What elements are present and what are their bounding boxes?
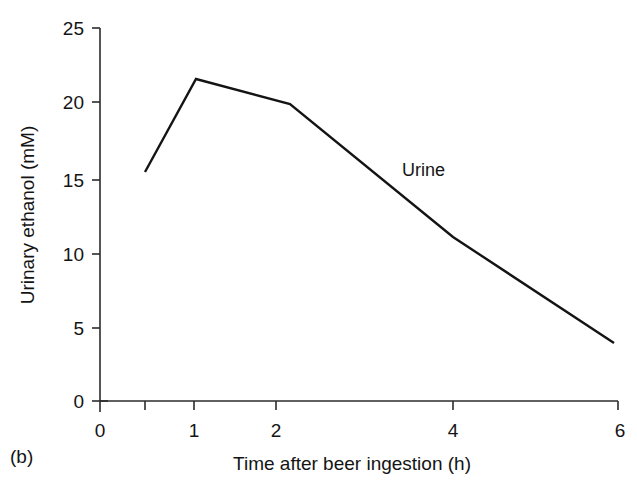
x-tick-label-2: 2 bbox=[271, 420, 282, 441]
urine-data-line bbox=[145, 79, 614, 343]
series-label-urine: Urine bbox=[402, 160, 445, 180]
x-axis-group: 0 1 2 4 6 Time after beer ingestion (h) bbox=[95, 401, 626, 474]
y-tick-label-5: 5 bbox=[73, 318, 84, 339]
series-urine: Urine bbox=[145, 79, 614, 343]
y-tick-label-15: 15 bbox=[63, 170, 84, 191]
x-tick-label-1: 1 bbox=[189, 420, 200, 441]
x-tick-label-4: 4 bbox=[448, 420, 459, 441]
y-axis-group: 25 20 15 10 5 0 Urinary ethanol (mM) bbox=[17, 18, 108, 412]
x-tick-label-0: 0 bbox=[95, 420, 106, 441]
line-chart-urinary-ethanol: 25 20 15 10 5 0 Urinary ethanol (mM) 0 1… bbox=[0, 0, 637, 494]
figure-panel-b: 25 20 15 10 5 0 Urinary ethanol (mM) 0 1… bbox=[0, 0, 637, 494]
y-tick-label-0: 0 bbox=[73, 391, 84, 412]
x-axis-title: Time after beer ingestion (h) bbox=[233, 453, 471, 474]
x-tick-label-6: 6 bbox=[615, 420, 626, 441]
panel-label-b: (b) bbox=[10, 446, 33, 467]
y-axis-title: Urinary ethanol (mM) bbox=[17, 126, 38, 304]
y-tick-label-10: 10 bbox=[63, 244, 84, 265]
y-tick-label-25: 25 bbox=[63, 18, 84, 39]
y-tick-label-20: 20 bbox=[63, 92, 84, 113]
